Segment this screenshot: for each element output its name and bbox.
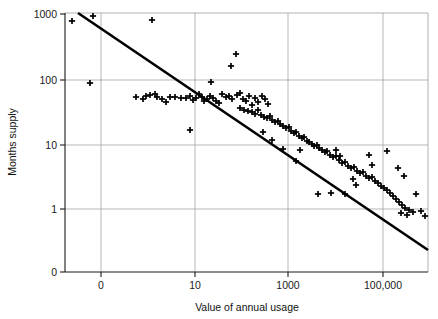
x-tick-marks: [101, 272, 383, 277]
chart-container: 1000 100 10 1 0 0 10 1000 100,000 Value …: [0, 0, 438, 319]
x-tick-label-1000: 1000: [276, 279, 300, 291]
y-tick-label-10: 10: [45, 139, 57, 151]
x-tick-label-100000: 100,000: [364, 279, 402, 291]
scatter-plot-svg: 1000 100 10 1 0 0 10 1000 100,000 Value …: [0, 0, 438, 319]
y-axis-title: Months supply: [6, 107, 18, 175]
y-tick-label-0: 0: [51, 266, 57, 278]
x-tick-label-10: 10: [189, 279, 201, 291]
y-tick-label-1000: 1000: [34, 8, 58, 20]
x-tick-label-0: 0: [98, 279, 104, 291]
plot-background: [65, 13, 428, 272]
y-tick-label-1: 1: [51, 203, 57, 215]
y-tick-marks: [60, 14, 65, 272]
y-tick-label-100: 100: [39, 74, 57, 86]
x-axis-title: Value of annual usage: [195, 301, 299, 313]
